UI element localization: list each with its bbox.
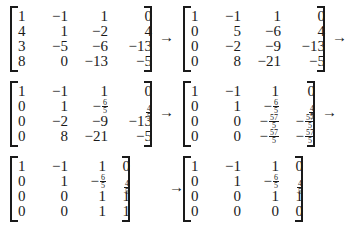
matrix-entry: −13 xyxy=(281,39,325,54)
matrix-entry: 0 xyxy=(108,9,152,24)
matrix-entry: 45 xyxy=(106,174,130,189)
left-bracket xyxy=(183,81,191,147)
matrix-entry: 5 xyxy=(207,24,241,39)
matrix-entry: 0 xyxy=(191,189,207,204)
matrix-entry: −1 xyxy=(34,159,68,174)
matrix-entry: −65 xyxy=(241,99,279,114)
matrix-entry: −65 xyxy=(241,174,279,189)
matrix-5: 1−11001−654500110011 xyxy=(10,156,130,222)
matrix-entry: 45 xyxy=(279,99,315,114)
matrix-entry: 1 xyxy=(191,159,207,174)
matrix-entry: 0 xyxy=(106,159,130,174)
matrix-entry: 0 xyxy=(191,99,207,114)
matrix-3: 1−11001−65450−2−9−1308−21−5 xyxy=(10,81,152,147)
matrix-entry: 0 xyxy=(191,129,207,144)
matrix-entry: 1 xyxy=(241,159,279,174)
matrix-entry: 4 xyxy=(281,24,325,39)
matrix-entry: 1 xyxy=(191,9,207,24)
matrix-entry: 1 xyxy=(241,189,279,204)
matrix-entry: 1 xyxy=(34,24,68,39)
matrix-entry: −575 xyxy=(279,129,315,144)
matrix-entry: 0 xyxy=(108,84,152,99)
matrix-entry: 0 xyxy=(241,204,279,219)
matrix-entry: −5 xyxy=(108,129,152,144)
matrix-entry: −21 xyxy=(68,129,108,144)
matrix-6: 1−11001−654500110000 xyxy=(183,156,303,222)
matrix-entry: 0 xyxy=(279,204,303,219)
matrix-entry: 1 xyxy=(279,189,303,204)
matrix-entry: 1 xyxy=(241,84,279,99)
matrix-entry: −575 xyxy=(279,114,315,129)
matrix-entry: −2 xyxy=(68,24,108,39)
matrix-entry: 1 xyxy=(18,84,34,99)
matrix-entry: −1 xyxy=(34,9,68,24)
matrix-entry: −13 xyxy=(68,54,108,69)
left-bracket xyxy=(183,6,191,72)
matrix-entry: 3 xyxy=(18,39,34,54)
matrix-entry: 1 xyxy=(207,99,241,114)
matrix-entry: 4 xyxy=(18,24,34,39)
matrix-entry: 0 xyxy=(207,189,241,204)
matrix-entry: 0 xyxy=(18,204,34,219)
matrix-entry: 1 xyxy=(106,189,130,204)
matrix-entry: 0 xyxy=(34,54,68,69)
matrix-entry: 0 xyxy=(191,204,207,219)
matrix-entry: 8 xyxy=(207,54,241,69)
matrix-entry: 4 xyxy=(108,24,152,39)
matrix-entry: 1 xyxy=(106,204,130,219)
matrix-4: 1−11001−654500−575−57500−575−575 xyxy=(183,81,315,147)
matrix-entry: −6 xyxy=(68,39,108,54)
matrix-entry: 1 xyxy=(68,159,106,174)
arrow-right-icon: → xyxy=(332,30,347,45)
matrix-entry: 0 xyxy=(191,39,207,54)
matrix-entry: 1 xyxy=(18,159,34,174)
matrix-entry: 0 xyxy=(191,24,207,39)
matrix-entry: −65 xyxy=(68,174,106,189)
matrix-entry: 0 xyxy=(18,174,34,189)
matrix-entry: −2 xyxy=(34,114,68,129)
arrow-right-icon: → xyxy=(159,30,174,45)
matrix-entry: 1 xyxy=(34,174,68,189)
matrix-entry: 1 xyxy=(207,174,241,189)
matrix-entry: 0 xyxy=(207,204,241,219)
matrix-entry: −13 xyxy=(108,114,152,129)
matrix-entry: 0 xyxy=(18,189,34,204)
matrix-entry: −65 xyxy=(68,99,108,114)
matrix-entry: 0 xyxy=(191,54,207,69)
arrow-right-icon: → xyxy=(322,105,337,120)
matrix-entry: 1 xyxy=(68,204,106,219)
matrix-entry: 0 xyxy=(207,129,241,144)
matrix-entry: −1 xyxy=(207,84,241,99)
matrix-entry: −575 xyxy=(241,129,279,144)
matrix-entry: 1 xyxy=(241,9,281,24)
matrix-entry: 0 xyxy=(18,99,34,114)
matrix-entry: 0 xyxy=(34,189,68,204)
left-bracket xyxy=(10,6,18,72)
matrix-entry: −5 xyxy=(108,54,152,69)
matrix-entry: 8 xyxy=(34,129,68,144)
matrix-entry: −1 xyxy=(207,9,241,24)
matrix-entry: −575 xyxy=(241,114,279,129)
matrix-entry: 0 xyxy=(191,114,207,129)
matrix-entry: −1 xyxy=(207,159,241,174)
left-bracket xyxy=(10,156,18,222)
matrix-entry: 1 xyxy=(191,84,207,99)
matrix-entry: 0 xyxy=(34,204,68,219)
matrix-entry: 0 xyxy=(18,114,34,129)
matrix-entry: 0 xyxy=(18,129,34,144)
left-bracket xyxy=(183,156,191,222)
arrow-right-icon: → xyxy=(169,180,184,195)
matrix-entry: −1 xyxy=(34,84,68,99)
matrix-entry: −6 xyxy=(241,24,281,39)
matrix-entry: 0 xyxy=(207,114,241,129)
left-bracket xyxy=(10,81,18,147)
matrix-entry: 0 xyxy=(281,9,325,24)
matrix-entry: 45 xyxy=(108,99,152,114)
matrix-entry: −2 xyxy=(207,39,241,54)
matrix-entry: −9 xyxy=(68,114,108,129)
matrix-entry: 1 xyxy=(18,9,34,24)
matrix-entry: 0 xyxy=(191,174,207,189)
matrix-entry: 1 xyxy=(34,99,68,114)
matrix-1: 1−11041−243−5−6−1380−13−5 xyxy=(10,6,152,72)
matrix-entry: 45 xyxy=(279,174,303,189)
